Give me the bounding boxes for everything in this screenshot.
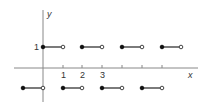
open-dot-icon [160,86,164,90]
y-tick-label-1: 1 [34,42,39,52]
closed-dot-icon [120,45,124,49]
open-dot-icon [140,45,144,49]
x-tick-label-3: 3 [100,70,105,80]
closed-dot-icon [160,45,164,49]
open-dot-icon [41,86,45,90]
closed-dot-icon [100,86,104,90]
open-dot-icon [120,86,124,90]
x-tick-label-1: 1 [61,70,66,80]
closed-dot-icon [140,86,144,90]
open-dot-icon [61,45,65,49]
segment-upper-0-1 [41,45,65,49]
y-axis-label: y [46,9,52,19]
step-function-diagram: y x 1 1 2 3 [0,0,201,105]
closed-dot-icon [41,45,45,49]
segment-lower-neg1-0 [21,86,45,90]
x-tick-label-2: 2 [80,70,85,80]
open-dot-icon [179,45,183,49]
segment-lower-1-2 [61,86,84,90]
closed-dot-icon [80,45,84,49]
open-dot-icon [80,86,84,90]
x-axis-label: x [187,70,193,80]
segment-upper-4-5 [120,45,144,49]
segment-lower-5-6 [140,86,164,90]
closed-dot-icon [21,86,25,90]
closed-dot-icon [61,86,65,90]
segment-upper-2-3 [80,45,104,49]
open-dot-icon [100,45,104,49]
segment-lower-3-4 [100,86,124,90]
segment-upper-6-7 [160,45,183,49]
